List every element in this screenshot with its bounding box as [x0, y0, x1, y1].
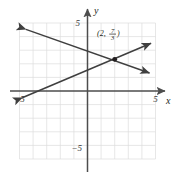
x-axis-label: x [165, 95, 171, 106]
x-axis-tick-5: 5 [153, 94, 158, 104]
point-label-denominator: 3 [110, 34, 115, 41]
point-label-close: ) [116, 29, 120, 38]
graph-canvas: 5 −5 −5 5 y x (2, 7 3 ) [0, 0, 175, 181]
intersection-point [112, 57, 117, 62]
y-axis-tick-neg5: −5 [71, 143, 82, 153]
y-axis-tick-5: 5 [76, 18, 81, 28]
point-label-open: (2, [97, 29, 106, 38]
intersection-point-label: (2, 7 3 ) [97, 27, 120, 42]
x-axis-tick-neg5: −5 [14, 94, 25, 104]
coordinate-graph-figure: 5 −5 −5 5 y x (2, 7 3 ) [0, 0, 175, 181]
y-axis-label: y [93, 5, 99, 16]
